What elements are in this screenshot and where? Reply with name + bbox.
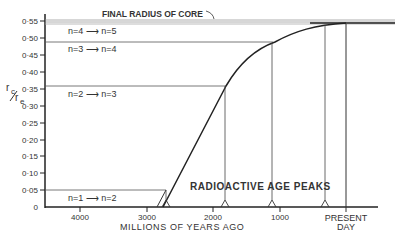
y-tick-label: 0·45 — [22, 51, 39, 60]
y-tick-label: 0·55 — [22, 17, 39, 26]
transition-label-n4-n5: n=4 ⟶ n=5 — [68, 26, 117, 36]
radioactive-age-peaks-label: RADIOACTIVE AGE PEAKS — [190, 181, 331, 192]
x-tick-label: 1000 — [271, 213, 289, 222]
y-tick-label: 0·30 — [22, 102, 39, 111]
core-radius-curve — [163, 23, 346, 207]
final-radius-arrow-icon — [206, 11, 214, 19]
svg-text:e: e — [20, 97, 25, 106]
y-tick-label: 0·25 — [22, 119, 39, 128]
y-tick-label: 0·15 — [22, 152, 39, 161]
y-tick-label: 0·05 — [22, 186, 39, 195]
x-axis-label: MILLIONS OF YEARS AGO — [120, 222, 244, 232]
present-day-label: DAY — [337, 222, 355, 232]
x-tick-label: 3000 — [138, 213, 156, 222]
svg-text:r: r — [6, 82, 10, 93]
x-tick-label: 2000 — [204, 213, 222, 222]
transition-label-n1-n2: n=1 ⟶ n=2 — [68, 193, 117, 203]
transition-label-n2-n3: n=2 ⟶ n=3 — [68, 89, 117, 99]
y-tick-label: 0·50 — [22, 34, 39, 43]
y-tick-label: 0·40 — [22, 68, 39, 77]
svg-text:r: r — [15, 92, 19, 103]
y-tick-label: 0·35 — [22, 85, 39, 94]
core-radius-chart: 0·55 0·50 0·45 0·40 0·35 0·30 0·25 0·20 … — [0, 0, 406, 240]
y-tick-label: 0·20 — [22, 136, 39, 145]
final-radius-label: FINAL RADIUS OF CORE — [102, 9, 203, 19]
y-tick-label: 0 — [34, 203, 39, 212]
y-tick-label: 0·10 — [22, 169, 39, 178]
peak-markers — [162, 200, 329, 207]
x-tick-label: 4000 — [71, 213, 89, 222]
transition-label-n3-n4: n=3 ⟶ n=4 — [68, 44, 117, 54]
